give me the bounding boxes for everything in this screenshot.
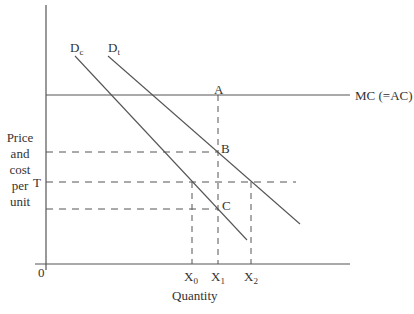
curve-label-dc: Dc [70, 41, 83, 57]
point-label-b: B [221, 142, 230, 155]
x0-sub: 0 [193, 276, 198, 286]
dt-sub: t [117, 47, 120, 57]
dc-sub: c [79, 47, 83, 57]
y-label-line: and [2, 146, 38, 162]
x0-base: X [184, 269, 193, 284]
curve-label-dt: Dt [108, 41, 120, 57]
y-label-line: Price [2, 130, 38, 146]
demand-curve-dt [108, 56, 300, 224]
point-label-c: C [222, 199, 231, 212]
x-tick-x0: X0 [184, 270, 198, 286]
x-tick-x1: X1 [211, 270, 225, 286]
x-axis-label: Quantity [172, 289, 218, 302]
x-tick-x2: X2 [244, 270, 258, 286]
dc-base: D [70, 40, 79, 55]
x1-sub: 1 [220, 276, 225, 286]
diagram-canvas [0, 0, 414, 314]
x1-base: X [211, 269, 220, 284]
x2-base: X [244, 269, 253, 284]
mc-label: MC (=AC) [355, 89, 413, 102]
x2-sub: 2 [253, 276, 258, 286]
price-label-t: T [33, 176, 41, 189]
y-axis-label: Price and cost per unit [2, 130, 38, 210]
origin-label: 0 [38, 266, 45, 279]
dt-base: D [108, 40, 117, 55]
y-label-line: unit [2, 194, 38, 210]
point-label-a: A [214, 83, 223, 96]
